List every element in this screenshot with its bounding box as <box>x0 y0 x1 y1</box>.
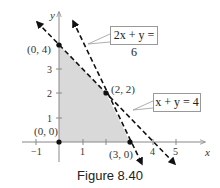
point-label-2-2: (2, 2) <box>111 83 135 96</box>
point-label-0-4: (0, 4) <box>27 43 51 56</box>
figure-caption: Figure 8.40 <box>0 168 220 183</box>
vertex-point <box>127 139 132 144</box>
x-axis-label: x <box>204 146 210 158</box>
vertex-point <box>103 90 108 95</box>
equation-label: x + y = 4 <box>155 95 199 109</box>
y-tick-label: 1 <box>47 113 52 124</box>
callout-pointer-eq2 <box>133 101 153 110</box>
y-axis-label: y <box>49 9 55 21</box>
equation-callout-2x-plus-y-eq-6: 2x + y = 6 <box>110 26 158 45</box>
y-tick-label: 2 <box>47 88 52 99</box>
point-label-0-0: (0, 0) <box>34 125 58 138</box>
x-tick-label: −1 <box>31 146 42 157</box>
y-tick-label: 3 <box>47 64 52 75</box>
equation-callout-x-plus-y-eq-4: x + y = 4 <box>153 93 201 112</box>
vertex-point <box>56 139 61 144</box>
vertex-point <box>56 42 61 47</box>
callout-pointer-eq1 <box>88 34 110 44</box>
point-label-3-0: (3, 0) <box>109 148 133 161</box>
x-tick-label: 1 <box>80 146 85 157</box>
x-tick-label: 4 <box>150 146 155 157</box>
x-tick-label: 5 <box>173 146 178 157</box>
